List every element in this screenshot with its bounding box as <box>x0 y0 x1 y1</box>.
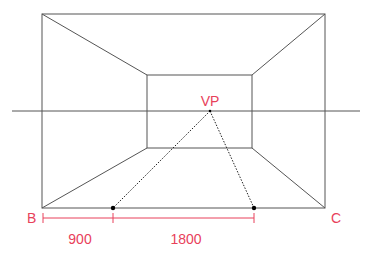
corner-b-label: B <box>27 211 36 225</box>
diagonal-bottom-left <box>42 148 147 208</box>
dimension-900-label: 900 <box>68 232 91 246</box>
diagonal-bottom-right <box>252 148 325 208</box>
vanishing-point-dot <box>209 110 212 113</box>
diagonal-top-right <box>252 14 325 75</box>
diagonal-top-left <box>42 14 147 75</box>
floor-point-left <box>111 206 115 210</box>
perspective-diagram: VP B C 900 1800 <box>0 0 378 256</box>
corner-c-label: C <box>331 211 341 225</box>
diagram-svg <box>0 0 378 256</box>
dotted-line-right <box>210 111 254 208</box>
floor-point-right <box>252 206 256 210</box>
dimension-1800-label: 1800 <box>170 232 201 246</box>
vanishing-point-label: VP <box>201 94 220 108</box>
